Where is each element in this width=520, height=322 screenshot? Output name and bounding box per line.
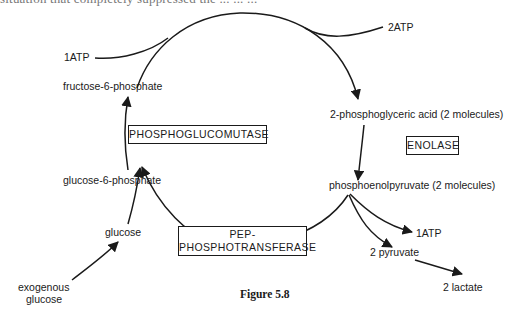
enzyme-enolase: ENOLASE: [406, 136, 459, 155]
label-phosphoenolpyruvate: phosphoenolpyruvate (2 molecules): [329, 179, 495, 191]
pathway-arrows: [0, 0, 520, 322]
arc-pyruvate-to-lactate: [415, 260, 462, 274]
label-glucose-6-phosphate: glucose-6-phosphate: [63, 174, 161, 186]
label-exogenous-glucose-1: exogenous: [18, 281, 69, 293]
arc-exogenous-to-glucose: [72, 242, 118, 280]
enzyme-pep-label-line2: PHOSPHOTRANSFERASE: [179, 241, 306, 254]
enzyme-enolase-label: ENOLASE: [407, 139, 459, 151]
label-lactate: 2 lactate: [443, 281, 483, 293]
label-atp-out: 2ATP: [388, 21, 413, 33]
label-pyruvate: 2 pyruvate: [370, 246, 419, 258]
enzyme-pep-label-line1: PEP-: [179, 228, 306, 241]
arc-f6p-to-pga: [137, 13, 358, 99]
label-phosphoglyceric-acid: 2-phosphoglyceric acid (2 molecules): [330, 108, 503, 120]
label-fructose-6-phosphate: fructose-6-phosphate: [63, 80, 162, 92]
label-atp-in: 1ATP: [64, 51, 89, 63]
atp-in-line: [95, 38, 168, 58]
arc-pep-to-atp: [350, 194, 412, 232]
label-glucose: glucose: [105, 226, 141, 238]
enzyme-pep-phosphotransferase: PEP- PHOSPHOTRANSFERASE: [178, 226, 307, 256]
enzyme-phosphoglucomutase: PHOSPHOGLUCOMUTASE: [128, 125, 267, 144]
label-exogenous-glucose-2: glucose: [26, 293, 62, 305]
label-atp-yield: 1ATP: [416, 227, 441, 239]
arc-pga-to-pep: [358, 125, 364, 180]
enzyme-phosphoglucomutase-label: PHOSPHOGLUCOMUTASE: [129, 128, 269, 140]
figure-caption: Figure 5.8: [240, 288, 290, 300]
